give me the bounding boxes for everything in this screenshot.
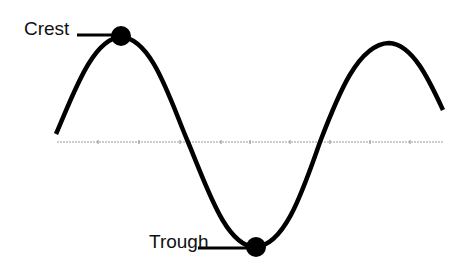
crest-marker bbox=[111, 26, 131, 46]
trough-marker bbox=[246, 237, 266, 257]
wave-diagram bbox=[0, 0, 468, 276]
crest-label: Crest bbox=[24, 18, 69, 40]
trough-label: Trough bbox=[149, 231, 209, 253]
